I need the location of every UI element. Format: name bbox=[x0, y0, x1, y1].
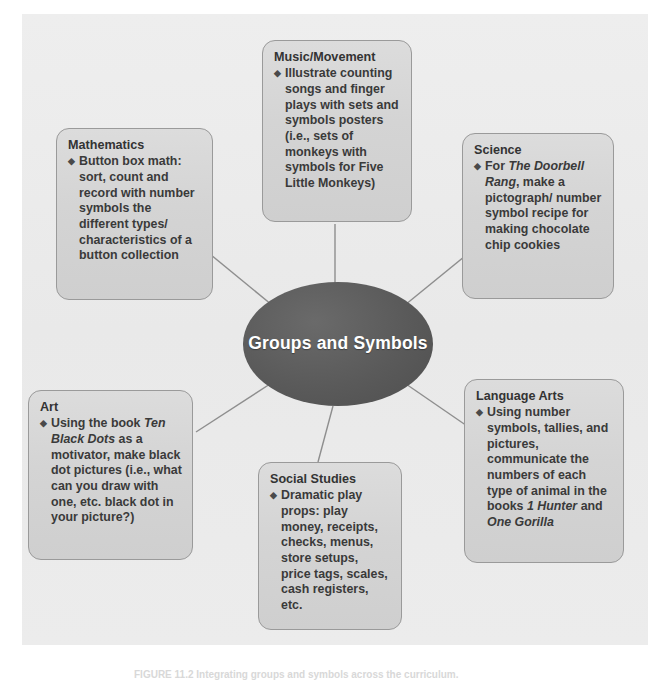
node-text: Illustrate counting songs and finger pla… bbox=[285, 66, 401, 191]
node-mathematics[interactable]: Mathematics ◆ Button box math: sort, cou… bbox=[56, 128, 213, 300]
node-text: For The Doorbell Rang, make a pictograph… bbox=[485, 159, 603, 253]
node-body: ◆ Using number symbols, tallies, and pic… bbox=[476, 405, 613, 530]
node-language-arts[interactable]: Language Arts ◆ Using number symbols, ta… bbox=[464, 379, 624, 563]
connector-mathematics bbox=[205, 250, 272, 305]
node-body: ◆ Using the book Ten Black Dots as a mot… bbox=[40, 416, 182, 525]
figure-page: Music/Movement ◆ Illustrate counting son… bbox=[0, 0, 671, 681]
node-title: Science bbox=[474, 143, 603, 157]
diamond-bullet-icon: ◆ bbox=[40, 416, 51, 525]
connector-social-studies bbox=[318, 406, 333, 462]
diamond-bullet-icon: ◆ bbox=[476, 405, 487, 530]
node-title: Music/Movement bbox=[274, 50, 401, 64]
diamond-bullet-icon: ◆ bbox=[274, 66, 285, 191]
central-node-groups-and-symbols[interactable]: Groups and Symbols bbox=[243, 282, 433, 406]
node-text: Button box math: sort, count and record … bbox=[79, 154, 202, 263]
node-title: Language Arts bbox=[476, 389, 613, 403]
node-body: ◆ Illustrate counting songs and finger p… bbox=[274, 66, 401, 191]
node-title: Social Studies bbox=[270, 472, 391, 486]
node-body: ◆ Button box math: sort, count and recor… bbox=[68, 154, 202, 263]
node-text: Using the book Ten Black Dots as a motiv… bbox=[51, 416, 182, 525]
node-art[interactable]: Art ◆ Using the book Ten Black Dots as a… bbox=[28, 390, 193, 560]
figure-caption: FIGURE 11.2 Integrating groups and symbo… bbox=[134, 669, 554, 681]
central-node-label: Groups and Symbols bbox=[248, 333, 428, 355]
connector-science bbox=[405, 252, 470, 305]
node-science[interactable]: Science ◆ For The Doorbell Rang, make a … bbox=[462, 133, 614, 299]
node-text: Dramatic play props: play money, receipt… bbox=[281, 488, 391, 613]
node-title: Art bbox=[40, 400, 182, 414]
node-text: Using number symbols, tallies, and pictu… bbox=[487, 405, 613, 530]
node-body: ◆ For The Doorbell Rang, make a pictogra… bbox=[474, 159, 603, 253]
node-title: Mathematics bbox=[68, 138, 202, 152]
connector-art bbox=[196, 384, 270, 432]
node-music-movement[interactable]: Music/Movement ◆ Illustrate counting son… bbox=[262, 40, 412, 222]
diamond-bullet-icon: ◆ bbox=[68, 154, 79, 263]
node-social-studies[interactable]: Social Studies ◆ Dramatic play props: pl… bbox=[258, 462, 402, 630]
diamond-bullet-icon: ◆ bbox=[270, 488, 281, 613]
diamond-bullet-icon: ◆ bbox=[474, 159, 485, 253]
node-body: ◆ Dramatic play props: play money, recei… bbox=[270, 488, 391, 613]
connector-language-arts bbox=[406, 384, 470, 428]
